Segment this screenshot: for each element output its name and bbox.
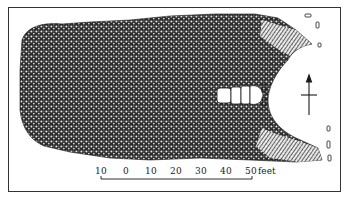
- scale-tick-label: 10: [145, 166, 157, 176]
- scale-tick-label: 10: [95, 166, 107, 176]
- scale-unit-label: feet: [258, 166, 276, 176]
- scale-tick-label: 30: [195, 166, 207, 176]
- scale-tick-label: 50: [245, 166, 257, 176]
- scale-tick-label: 40: [220, 166, 232, 176]
- scale-tick-label: 20: [170, 166, 182, 176]
- scale-bar: [101, 176, 252, 179]
- scale-tick-label: 0: [123, 166, 129, 176]
